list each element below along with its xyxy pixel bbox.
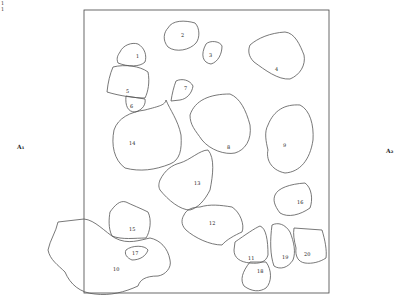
region-label-5: 5 [126,89,129,94]
corner-text-2: 1 [1,7,4,13]
region-label-18: 18 [257,269,263,274]
region-label-20: 20 [304,252,310,257]
region-label-14: 14 [129,141,135,146]
region-label-2: 2 [181,33,184,38]
region-16-outline [274,183,312,215]
region-7-outline [171,80,193,101]
region-6-outline [126,96,145,112]
region-label-1: 1 [136,54,139,59]
side-label-right: A₂ [386,148,393,154]
region-label-6: 6 [130,104,133,109]
grain-map [0,0,410,305]
region-label-17: 17 [132,251,138,256]
region-4-outline [249,32,305,79]
region-label-4: 4 [275,67,278,72]
region-label-15: 15 [129,227,135,232]
region-8-outline [190,94,250,153]
region-label-16: 16 [297,200,303,205]
region-14-outline [113,100,181,170]
sample-frame [84,10,329,293]
region-15-outline [109,202,150,239]
corner-mark: 1 1 [1,1,4,12]
side-label-left: A₁ [17,144,24,150]
region-label-12: 12 [209,221,215,226]
region-19-outline [271,224,295,268]
region-1-outline [117,43,146,65]
region-label-7: 7 [184,86,187,91]
region-label-9: 9 [283,143,286,148]
region-label-10: 10 [113,267,119,272]
region-label-13: 13 [194,181,200,186]
region-20-outline [294,228,327,263]
region-label-19: 19 [282,255,288,260]
region-3-outline [203,42,222,64]
region-label-3: 3 [209,53,212,58]
region-label-11: 11 [248,256,254,261]
region-18-outline [242,262,271,291]
region-10-outline [48,219,170,295]
region-label-8: 8 [227,145,230,150]
region-13-outline [159,150,213,210]
region-9-outline [266,105,313,173]
